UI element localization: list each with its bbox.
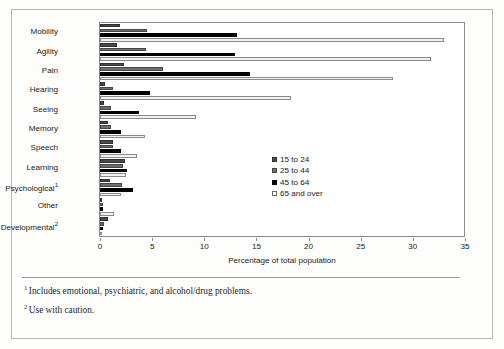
bar bbox=[100, 154, 137, 158]
x-axis-tick-label: 15 bbox=[252, 242, 261, 251]
bar bbox=[100, 188, 133, 192]
x-axis-tick-label: 35 bbox=[460, 242, 469, 251]
bar bbox=[100, 222, 104, 226]
y-axis-tick-label: Memory bbox=[29, 124, 58, 133]
bar bbox=[100, 145, 113, 149]
x-axis-tick-label: 30 bbox=[408, 242, 417, 251]
bar bbox=[100, 149, 121, 153]
footnotes: 1Includes emotional, psychiatric, and al… bbox=[24, 284, 454, 322]
bar bbox=[100, 91, 150, 95]
y-axis-tick-label: Developmental2 bbox=[1, 221, 58, 232]
bar bbox=[100, 33, 237, 37]
y-axis-tick-label: Psychological1 bbox=[5, 182, 58, 193]
x-axis-tick-label: 20 bbox=[304, 242, 313, 251]
legend-item[interactable]: 15 to 24 bbox=[272, 155, 323, 164]
bar bbox=[100, 53, 235, 57]
footnote: 1Includes emotional, psychiatric, and al… bbox=[24, 284, 454, 296]
legend: 15 to 2425 to 4445 to 6465 and over bbox=[272, 155, 323, 198]
bar bbox=[100, 38, 444, 42]
footnote-marker: 1 bbox=[55, 182, 58, 188]
legend-label: 45 to 64 bbox=[280, 178, 309, 187]
y-axis-tick-label: Other bbox=[38, 201, 58, 210]
bar bbox=[100, 106, 111, 110]
legend-label: 25 to 44 bbox=[280, 166, 309, 175]
bar bbox=[100, 169, 127, 173]
legend-label: 65 and over bbox=[280, 189, 323, 198]
x-axis-tick-label: 0 bbox=[98, 242, 103, 251]
y-axis-tick-label: Learning bbox=[26, 163, 58, 172]
bar bbox=[100, 29, 147, 33]
x-axis-tick bbox=[309, 238, 310, 241]
bar bbox=[100, 207, 103, 211]
x-axis-tick-label: 10 bbox=[200, 242, 209, 251]
bar bbox=[100, 48, 146, 52]
legend-swatch-icon bbox=[272, 191, 277, 196]
bar bbox=[100, 198, 102, 202]
y-axis-tick-label: Hearing bbox=[30, 85, 58, 94]
bar bbox=[100, 121, 108, 125]
bar bbox=[100, 125, 111, 129]
footnote-divider bbox=[22, 277, 460, 278]
bar bbox=[100, 96, 291, 100]
bar-group bbox=[100, 197, 465, 216]
bar bbox=[100, 43, 117, 47]
bar bbox=[100, 111, 139, 115]
bar-group bbox=[100, 42, 465, 61]
footnote-text: Includes emotional, psychiatric, and alc… bbox=[29, 286, 252, 296]
footnote-marker: 2 bbox=[24, 303, 27, 310]
bar bbox=[100, 101, 104, 105]
bar-group bbox=[100, 62, 465, 81]
y-axis-tick-label: Seeing bbox=[33, 105, 58, 114]
x-axis-tick bbox=[204, 238, 205, 241]
footnote-marker: 2 bbox=[55, 221, 58, 227]
bar bbox=[100, 140, 113, 144]
x-axis-tick bbox=[152, 238, 153, 241]
legend-item[interactable]: 45 to 64 bbox=[272, 178, 323, 187]
bar bbox=[100, 67, 163, 71]
x-axis-tick bbox=[256, 238, 257, 241]
bar-group bbox=[100, 120, 465, 139]
bar-group bbox=[100, 81, 465, 100]
y-axis-tick-label: Pain bbox=[42, 66, 58, 75]
footnote-text: Use with caution. bbox=[29, 305, 94, 315]
legend-label: 15 to 24 bbox=[280, 155, 309, 164]
chart-figure: MobilityAgilityPainHearingSeeingMemorySp… bbox=[0, 0, 504, 349]
legend-item[interactable]: 65 and over bbox=[272, 189, 323, 198]
bar bbox=[100, 203, 103, 207]
bar bbox=[100, 183, 122, 187]
bar bbox=[100, 115, 196, 119]
legend-item[interactable]: 25 to 44 bbox=[272, 166, 323, 175]
bar bbox=[100, 135, 145, 139]
bar bbox=[100, 227, 103, 231]
y-axis-tick-label: Mobility bbox=[31, 27, 58, 36]
bar bbox=[100, 87, 113, 91]
bar bbox=[100, 82, 105, 86]
bar bbox=[100, 24, 120, 28]
x-axis-title: Percentage of total population bbox=[99, 256, 465, 265]
bar bbox=[100, 173, 126, 177]
y-axis-tick-label: Agility bbox=[36, 47, 58, 56]
bar bbox=[100, 212, 114, 216]
footnote: 2Use with caution. bbox=[24, 303, 454, 315]
x-axis-tick-label: 5 bbox=[150, 242, 155, 251]
bar-group bbox=[100, 23, 465, 42]
legend-swatch-icon bbox=[272, 157, 277, 162]
legend-swatch-icon bbox=[272, 180, 277, 185]
y-axis-tick-label: Speech bbox=[31, 143, 58, 152]
bar bbox=[100, 159, 125, 163]
bar bbox=[100, 72, 250, 76]
bar bbox=[100, 193, 121, 197]
x-axis-tick-label: 25 bbox=[356, 242, 365, 251]
bar bbox=[100, 57, 431, 61]
bar-group bbox=[100, 217, 465, 236]
bar-group bbox=[100, 100, 465, 119]
x-axis-tick bbox=[361, 238, 362, 241]
bar bbox=[100, 130, 121, 134]
legend-swatch-icon bbox=[272, 168, 277, 173]
footnote-marker: 1 bbox=[24, 284, 27, 291]
plot-wrapper: MobilityAgilityPainHearingSeeingMemorySp… bbox=[99, 22, 465, 237]
bar bbox=[100, 77, 393, 81]
bar bbox=[100, 63, 124, 67]
x-axis-tick bbox=[465, 238, 466, 241]
bar bbox=[100, 217, 108, 221]
